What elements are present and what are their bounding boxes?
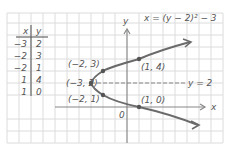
- table-header-x: x: [22, 26, 29, 36]
- table-cell: −2: [14, 51, 28, 61]
- table-header-y: y: [35, 26, 42, 36]
- graph-diagram: x y −3 2 −2 3 −2 1 1 4 1 0 y x 0 y = 2 x…: [0, 0, 227, 152]
- point: [101, 69, 105, 73]
- point: [137, 105, 141, 109]
- point: [137, 57, 141, 61]
- point-label: (−3, 2): [66, 78, 98, 88]
- table-cell: 3: [36, 51, 42, 61]
- equation-label: x = (y − 2)² − 3: [143, 13, 217, 23]
- curve-arrow-icon: [191, 121, 199, 129]
- table-cell: 4: [36, 75, 42, 85]
- point-label: (1, 4): [141, 62, 165, 72]
- point-label: (−2, 1): [68, 94, 100, 104]
- origin-label: 0: [119, 110, 125, 120]
- point-label: (1, 0): [141, 95, 165, 105]
- point-label: (−2, 3): [68, 59, 100, 69]
- table-cell: 2: [36, 39, 42, 49]
- x-axis-label: x: [210, 102, 217, 112]
- symmetry-label: y = 2: [187, 78, 213, 88]
- table-cell: −3: [14, 39, 28, 49]
- y-axis-label: y: [122, 16, 129, 26]
- table-cell: −2: [14, 63, 28, 73]
- table-cell: 1: [21, 75, 27, 85]
- table-cell: 1: [36, 63, 42, 73]
- point: [101, 93, 105, 97]
- table-cell: 1: [21, 87, 27, 97]
- table-cell: 0: [36, 87, 42, 97]
